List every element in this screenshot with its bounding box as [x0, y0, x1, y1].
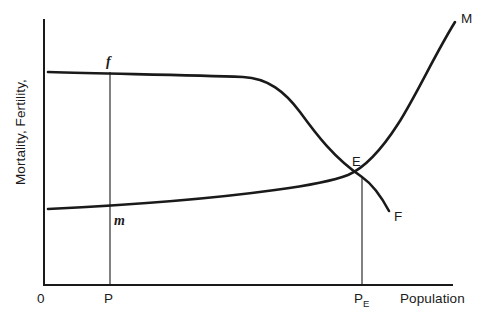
fertility-curve-end-label: F: [394, 209, 402, 224]
mortality-curve: [48, 22, 455, 209]
curve-labels-group: f m E F M: [106, 11, 472, 228]
fertility-mortality-figure: Mortality, Fertility, Population 0 P P E…: [0, 0, 489, 321]
p-tick-label: P: [104, 291, 113, 306]
mortality-curve-end-label: M: [461, 11, 472, 26]
pe-tick-subscript: E: [363, 298, 369, 309]
fertility-curve-marker-label: f: [106, 54, 112, 69]
y-axis-title: Mortality, Fertility,: [13, 79, 28, 185]
fertility-curve: [48, 72, 389, 211]
guide-lines-group: [110, 72, 362, 285]
pe-tick-label: P: [354, 291, 363, 306]
mortality-curve-marker-label: m: [114, 213, 125, 228]
origin-tick-label: 0: [37, 291, 45, 306]
tick-labels-group: 0 P P E: [37, 291, 369, 309]
fertility-curve-group: [48, 72, 389, 211]
chart-canvas: Mortality, Fertility, Population 0 P P E…: [0, 0, 489, 321]
axis-titles-group: Mortality, Fertility, Population: [13, 79, 465, 306]
mortality-curve-group: [48, 22, 455, 209]
x-axis-title: Population: [400, 291, 465, 306]
equilibrium-point-label: E: [352, 154, 361, 169]
